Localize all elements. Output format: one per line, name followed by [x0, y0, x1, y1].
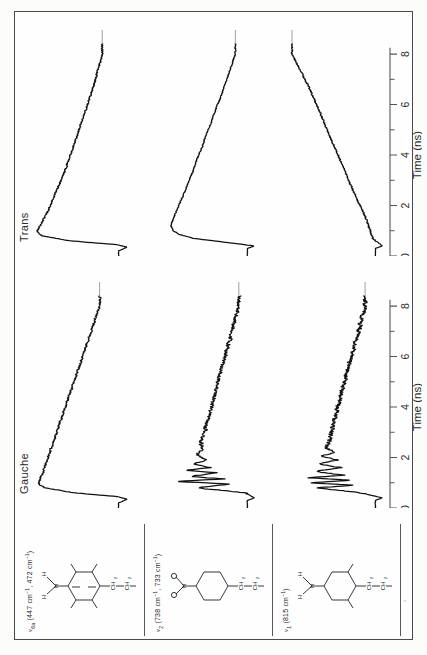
column-header-trans: Trans [18, 212, 30, 242]
svg-text:4: 4 [399, 152, 411, 158]
svg-text:2: 2 [127, 576, 132, 579]
svg-text:2: 2 [399, 202, 411, 208]
plot-panel-gauche-nu2 [158, 280, 262, 508]
svg-text:0: 0 [399, 253, 411, 256]
rotated-figure-canvas: ν6a (447 cm−1, 472 cm−1) [16, 13, 411, 638]
scan-speckle [404, 600, 406, 602]
mode-label-nu1: ν1 (815 cm−1) [280, 588, 292, 632]
svg-text:H: H [41, 595, 47, 599]
svg-text:CH: CH [110, 582, 116, 591]
plot-panel-trans-nu2 [158, 28, 262, 256]
freq-part-2: , 733 cm [154, 562, 161, 590]
svg-text:Time (ns): Time (ns) [411, 131, 422, 179]
svg-text:CH: CH [380, 582, 386, 591]
freq-part-2: , 472 cm [26, 559, 33, 587]
freq-part-1: (738 cm [154, 597, 161, 624]
figure-page: ν6a (447 cm−1, 472 cm−1) [0, 0, 427, 655]
svg-text:N: N [309, 584, 315, 588]
nu-subscript: 6a [30, 623, 36, 629]
svg-text:2: 2 [255, 576, 260, 579]
svg-text:CH: CH [238, 582, 244, 591]
plot-panel-trans-nu1 [286, 28, 390, 256]
molecular-structure-nu6a: N H H CH2 CH2 [38, 522, 138, 634]
structure-row-nu2: ν2 (738 cm−1, 733 cm−1) [148, 518, 270, 638]
svg-text:H: H [297, 572, 303, 576]
molecular-structure-nu2: N CH2 CH2 [166, 522, 266, 634]
svg-text:N: N [181, 584, 187, 588]
figure-body: ν6a (447 cm−1, 472 cm−1) [16, 13, 411, 638]
svg-text:CH: CH [366, 582, 372, 591]
column-header-gauche: Gauche [18, 453, 30, 494]
svg-text:2: 2 [383, 576, 388, 579]
svg-text:8: 8 [399, 51, 411, 57]
gauche-column: Gauche 02468Time (ns) [16, 266, 411, 516]
nu-symbol: ν [154, 629, 162, 632]
structure-row-nu1: ν1 (815 cm−1) [276, 518, 398, 638]
svg-text:4: 4 [399, 404, 411, 410]
svg-text:8: 8 [399, 303, 411, 309]
svg-text:2: 2 [399, 454, 411, 460]
svg-text:H: H [297, 595, 303, 599]
figure-frame: ν6a (447 cm−1, 472 cm−1) [14, 11, 413, 640]
svg-text:Time (ns): Time (ns) [411, 383, 422, 431]
row-divider-1 [144, 524, 145, 636]
svg-text:0: 0 [399, 505, 411, 508]
svg-text:H: H [41, 572, 47, 576]
mode-label-nu2: ν2 (738 cm−1, 733 cm−1) [152, 554, 164, 632]
nu-symbol: ν [282, 629, 290, 632]
row-divider-3 [400, 524, 401, 636]
x-axis-trans: 02468Time (ns) [388, 28, 422, 256]
freq-part-1: (815 cm [282, 597, 289, 624]
structure-row-nu6a: ν6a (447 cm−1, 472 cm−1) [20, 518, 142, 638]
mode-label-nu6a: ν6a (447 cm−1, 472 cm−1) [24, 551, 36, 632]
svg-text:CH: CH [124, 582, 130, 591]
nu-subscript: 2 [158, 626, 164, 629]
freq-part-1: (447 cm [26, 594, 33, 621]
x-axis-gauche: 02468Time (ns) [388, 280, 422, 508]
plot-panel-trans-nu6a [30, 28, 134, 256]
svg-text:CH: CH [252, 582, 258, 591]
svg-text:2: 2 [369, 576, 374, 579]
svg-text:2: 2 [113, 576, 118, 579]
nu-symbol: ν [26, 629, 34, 632]
structure-column: ν6a (447 cm−1, 472 cm−1) [16, 518, 411, 638]
svg-text:2: 2 [241, 576, 246, 579]
svg-text:6: 6 [399, 101, 411, 107]
nu-subscript: 1 [286, 626, 292, 629]
row-divider-2 [272, 524, 273, 636]
trans-column: Trans 02468Time (ns) [16, 16, 411, 264]
plot-panel-gauche-nu6a [30, 280, 134, 508]
molecular-structure-nu1: N H H CH2 CH2 [294, 522, 394, 634]
svg-text:N: N [53, 584, 59, 588]
plot-panel-gauche-nu1 [286, 280, 390, 508]
svg-text:6: 6 [399, 353, 411, 359]
